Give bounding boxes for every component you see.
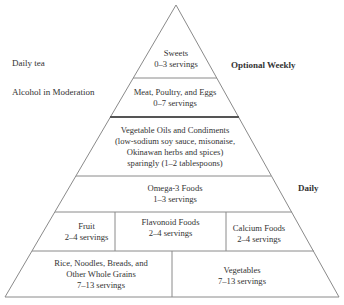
- tier-calcium: Calcium Foods 2–4 servings: [226, 215, 292, 252]
- tier-vegetables: Vegetables 7–13 servings: [172, 256, 312, 296]
- oils-line3: Okinawan herbs and spices): [127, 147, 224, 158]
- fruit-name: Fruit: [78, 221, 95, 232]
- daily-label: Daily: [298, 184, 319, 193]
- grains-line2: Other Whole Grains: [66, 269, 136, 280]
- tier-oils: Vegetable Oils and Condiments (low-sodiu…: [90, 119, 260, 175]
- optional-weekly-label: Optional Weekly: [231, 61, 296, 70]
- tier-sweets: Sweets 0–3 servings: [136, 44, 216, 74]
- flavonoid-name: Flavonoid Foods: [141, 217, 199, 228]
- sweets-name: Sweets: [164, 48, 188, 59]
- vegetables-name: Vegetables: [223, 265, 260, 276]
- flavonoid-servings: 2–4 servings: [149, 228, 193, 239]
- oils-line2: (low-sodium soy sauce, misonaise,: [115, 136, 235, 147]
- meat-servings: 0–7 servings: [153, 98, 197, 109]
- tier-omega3: Omega-3 Foods 1–3 servings: [80, 177, 270, 211]
- grains-line1: Rice, Noodles, Breads, and: [54, 258, 148, 269]
- oils-line4: sparingly (1–2 tablespoons): [127, 158, 222, 169]
- fruit-servings: 2–4 servings: [65, 232, 109, 243]
- tier-meat: Meat, Poultry, and Eggs 0–7 servings: [120, 80, 230, 116]
- tier-grains: Rice, Noodles, Breads, and Other Whole G…: [30, 253, 172, 295]
- daily-tea-label: Daily tea: [12, 59, 45, 68]
- grains-servings: 7–13 servings: [77, 280, 125, 291]
- tier-fruit: Fruit 2–4 servings: [58, 213, 115, 250]
- tier-flavonoid: Flavonoid Foods 2–4 servings: [115, 211, 226, 245]
- omega3-servings: 1–3 servings: [153, 194, 197, 205]
- sweets-servings: 0–3 servings: [154, 59, 198, 70]
- oils-line1: Vegetable Oils and Condiments: [121, 125, 230, 136]
- alcohol-label: Alcohol in Moderation: [12, 88, 95, 97]
- vegetables-servings: 7–13 servings: [218, 276, 266, 287]
- meat-name: Meat, Poultry, and Eggs: [134, 87, 217, 98]
- calcium-name: Calcium Foods: [233, 223, 285, 234]
- omega3-name: Omega-3 Foods: [147, 183, 202, 194]
- calcium-servings: 2–4 servings: [237, 234, 281, 245]
